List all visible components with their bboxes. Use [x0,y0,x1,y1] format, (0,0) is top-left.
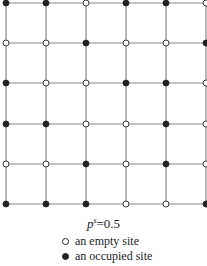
occupied-site-icon [62,253,69,260]
occupied-site [163,161,169,167]
empty-site [43,40,49,46]
occupied-site [3,0,9,6]
occupied-site [123,0,129,6]
empty-site [43,161,49,167]
empty-site [163,201,169,207]
occupied-site [203,40,207,46]
occupied-site [163,80,169,86]
empty-site [163,40,169,46]
probability-caption: ps=0.5 [0,216,207,232]
occupied-site [3,80,9,86]
occupied-site [43,121,49,127]
occupied-site [163,121,169,127]
occupied-site [43,0,49,6]
occupied-site [43,201,49,207]
occupied-site [3,121,9,127]
caption-value: =0.5 [97,216,121,231]
empty-site [83,121,89,127]
occupied-site [3,201,9,207]
legend-item-occupied: an occupied site [60,249,152,264]
empty-site [3,40,9,46]
occupied-site [83,161,89,167]
empty-site [3,161,9,167]
empty-site [123,201,129,207]
occupied-site [123,80,129,86]
legend-label-empty: an empty site [75,234,139,249]
empty-site [123,40,129,46]
empty-site [203,121,207,127]
empty-site [203,0,207,6]
occupied-site [83,201,89,207]
empty-site [123,121,129,127]
legend-label-occupied: an occupied site [75,249,152,264]
legend-item-empty: an empty site [60,234,152,249]
legend: an empty site an occupied site [60,234,152,264]
empty-site [123,161,129,167]
lattice-diagram [0,0,207,212]
empty-site [83,80,89,86]
empty-site [203,80,207,86]
occupied-site [83,40,89,46]
empty-site [83,0,89,6]
occupied-site [203,201,207,207]
empty-site-icon [62,238,69,245]
empty-site [203,161,207,167]
occupied-site [163,0,169,6]
empty-site [43,80,49,86]
